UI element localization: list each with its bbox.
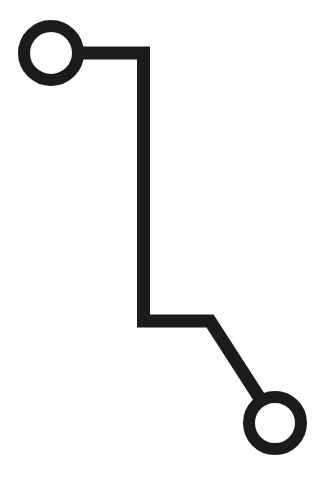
start-node-ring-icon — [24, 26, 78, 80]
circuit-trace-diagram — [0, 0, 328, 498]
end-node-ring-icon — [249, 397, 301, 449]
